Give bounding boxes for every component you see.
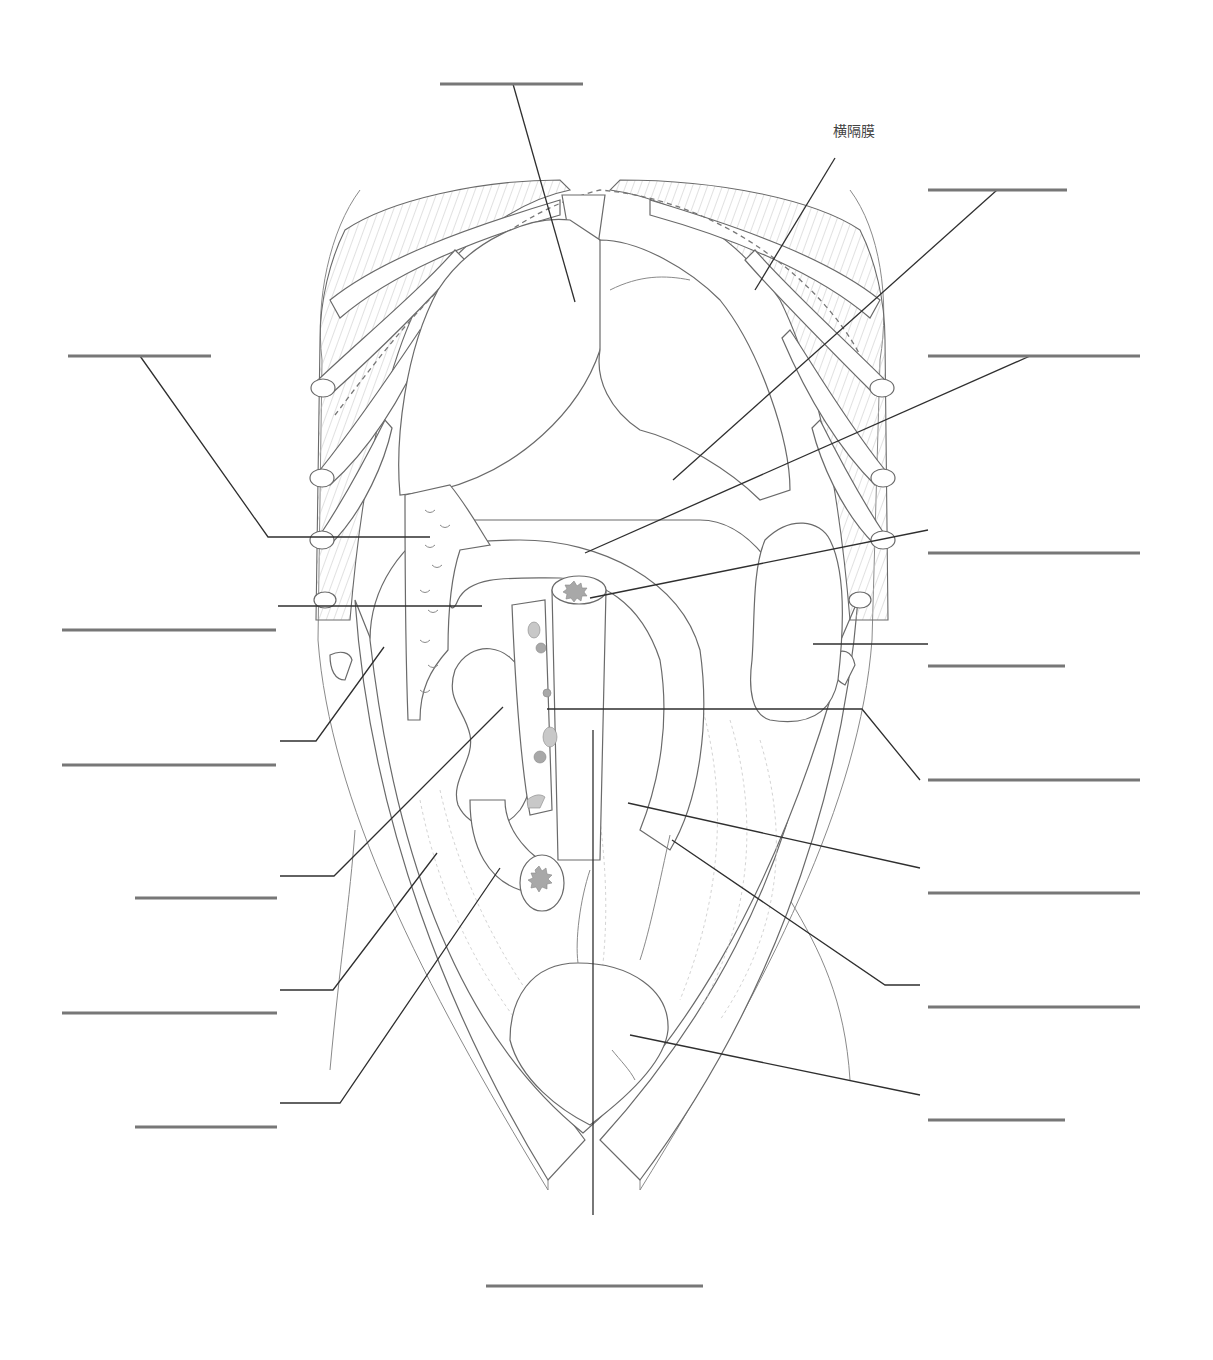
spleen <box>751 523 843 722</box>
label-diaphragm: 横隔膜 <box>833 120 875 140</box>
esophagus-tube <box>552 576 606 860</box>
diagram-canvas: 横隔膜 <box>0 0 1213 1360</box>
